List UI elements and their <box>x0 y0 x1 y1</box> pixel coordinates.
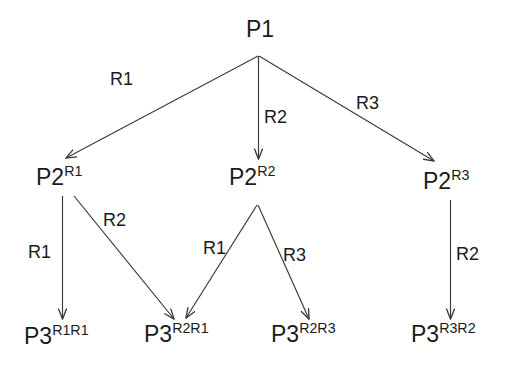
node-p3-r2r1-base: P3 <box>144 321 172 347</box>
node-p2-r3: P2R3 <box>423 170 469 193</box>
node-p3-r2r3-sup: R2R3 <box>299 320 335 336</box>
node-p3-r2r3-base: P3 <box>271 321 299 347</box>
node-p3-r1r1: P3R1R1 <box>24 325 89 348</box>
node-p3-r1r1-base: P3 <box>24 323 52 349</box>
node-p1-base: P1 <box>246 16 274 42</box>
node-p2-r3-base: P2 <box>423 168 451 194</box>
node-p2-r1-sup: R1 <box>64 163 82 179</box>
node-p2-r3-sup: R3 <box>451 167 469 183</box>
edge-label-p1-p2r1: R1 <box>110 70 133 88</box>
edge-p1-p2r1 <box>66 56 258 158</box>
node-p3-r2r1-sup: R2R1 <box>172 320 208 336</box>
node-p3-r2r1: P3R2R1 <box>144 323 209 346</box>
edge-label-p1-p2r3: R3 <box>356 94 379 112</box>
node-p2-r1: P2R1 <box>36 166 82 189</box>
node-p3-r3r2-sup: R3R2 <box>439 320 475 336</box>
node-p2-r2: P2R2 <box>229 166 275 189</box>
edge-label-p2r2-p3r2r3: R3 <box>283 246 306 264</box>
node-p3-r3r2: P3R3R2 <box>411 323 476 346</box>
edge-p2r2-p3r2r1 <box>186 205 257 318</box>
edge-label-p2r3-p3r3r2: R2 <box>456 245 479 263</box>
node-p3-r3r2-base: P3 <box>411 321 439 347</box>
diagram-canvas: P1 P2R1 P2R2 P2R3 P3R1R1 P3R2R1 P3R2R3 P… <box>0 0 519 375</box>
node-p2-r1-base: P2 <box>36 164 64 190</box>
node-p1: P1 <box>246 18 274 41</box>
edge-label-p2r2-p3r2r1: R1 <box>203 239 226 257</box>
node-p3-r2r3: P3R2R3 <box>271 323 336 346</box>
node-p3-r1r1-sup: R1R1 <box>52 322 88 338</box>
node-p2-r2-sup: R2 <box>257 163 275 179</box>
edge-label-p2r1-p3r2r1: R2 <box>103 211 126 229</box>
edge-label-p2r1-p3r1r1: R1 <box>28 243 51 261</box>
node-p2-r2-base: P2 <box>229 164 257 190</box>
edge-label-p1-p2r2: R2 <box>264 108 287 126</box>
